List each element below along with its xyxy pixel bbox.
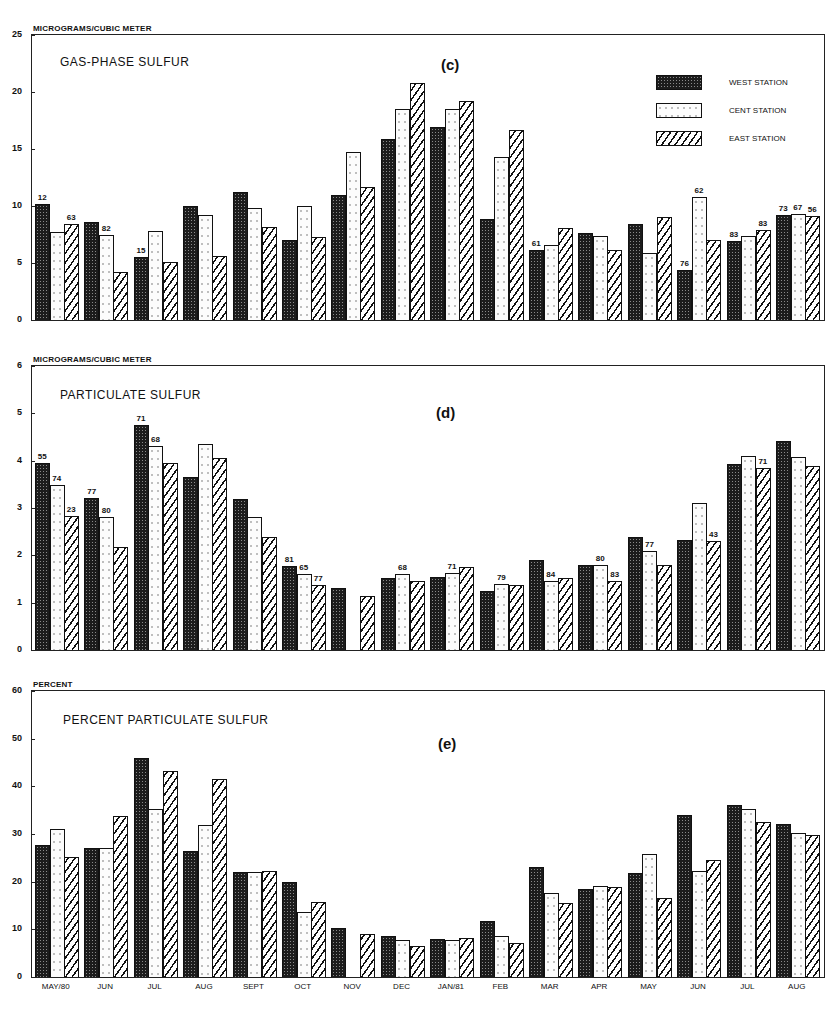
bar-cent-station — [297, 912, 312, 977]
y-tick-mark — [31, 834, 35, 835]
bar-east-station — [657, 898, 672, 977]
bar-east-station — [558, 903, 573, 977]
bar-east-station — [706, 860, 721, 977]
bar-west-station — [381, 936, 396, 977]
bar-west-station — [134, 758, 149, 977]
x-tick-label: JUN — [690, 982, 706, 991]
bar-west-station — [183, 851, 198, 977]
bar-west-station — [529, 867, 544, 977]
bar-west-station — [282, 882, 297, 977]
x-tick-label: AUG — [788, 982, 805, 991]
bar-east-station — [509, 943, 524, 977]
bar-area — [32, 691, 824, 977]
bar-east-station — [212, 779, 227, 977]
plot-frame: PERCENT PARTICULATE SULFUR (e) — [31, 690, 825, 978]
bar-west-station — [578, 889, 593, 977]
y-tick-mark — [31, 786, 35, 787]
bar-west-station — [331, 928, 346, 977]
bar-east-station — [311, 902, 326, 977]
y-tick-label: 50 — [6, 733, 22, 743]
bar-east-station — [360, 934, 375, 977]
bar-cent-station — [544, 893, 559, 977]
bar-east-station — [805, 835, 820, 977]
bar-east-station — [113, 816, 128, 977]
x-tick-label: APR — [591, 982, 607, 991]
bar-west-station — [84, 848, 99, 977]
panel-percent-particulate-sulfur: PERCENT PERCENT PARTICULATE SULFUR (e) 0… — [0, 0, 837, 1009]
bar-east-station — [607, 887, 622, 977]
bar-cent-station — [148, 809, 163, 977]
bar-cent-station — [395, 940, 410, 977]
bar-west-station — [430, 939, 445, 977]
x-tick-label: FEB — [493, 982, 509, 991]
bar-cent-station — [494, 936, 509, 977]
bar-cent-station — [50, 829, 65, 977]
y-tick-label: 0 — [6, 971, 22, 981]
y-tick-label: 60 — [6, 685, 22, 695]
bar-east-station — [262, 871, 277, 977]
bar-west-station — [727, 805, 742, 977]
bar-east-station — [459, 938, 474, 977]
x-tick-label: OCT — [294, 982, 311, 991]
x-tick-label: DEC — [393, 982, 410, 991]
bar-cent-station — [247, 872, 262, 977]
y-tick-mark — [31, 929, 35, 930]
bar-cent-station — [642, 854, 657, 977]
bar-cent-station — [741, 809, 756, 977]
x-tick-label: SEPT — [243, 982, 264, 991]
bar-cent-station — [99, 848, 114, 977]
y-tick-mark — [31, 739, 35, 740]
x-tick-label: JUL — [740, 982, 754, 991]
bar-west-station — [35, 845, 50, 978]
x-tick-label: MAY — [640, 982, 657, 991]
bar-cent-station — [445, 940, 460, 977]
bar-east-station — [64, 857, 79, 977]
x-tick-label: NOV — [343, 982, 360, 991]
bar-east-station — [410, 946, 425, 977]
y-tick-label: 20 — [6, 876, 22, 886]
y-axis-unit: PERCENT — [33, 680, 73, 689]
bar-west-station — [628, 873, 643, 977]
y-tick-label: 10 — [6, 923, 22, 933]
x-tick-label: MAR — [541, 982, 559, 991]
x-tick-label: AUG — [195, 982, 212, 991]
y-tick-mark — [31, 691, 35, 692]
y-tick-mark — [31, 882, 35, 883]
y-tick-label: 40 — [6, 780, 22, 790]
y-tick-mark — [31, 977, 35, 978]
x-tick-label: JUL — [147, 982, 161, 991]
bar-west-station — [677, 815, 692, 977]
bar-cent-station — [692, 871, 707, 977]
bar-cent-station — [198, 825, 213, 977]
y-tick-label: 30 — [6, 828, 22, 838]
bar-east-station — [163, 771, 178, 977]
bar-east-station — [756, 822, 771, 977]
x-tick-label: JAN/81 — [438, 982, 464, 991]
bar-west-station — [480, 921, 495, 977]
x-tick-label: JUN — [97, 982, 113, 991]
x-tick-label: MAY/80 — [42, 982, 70, 991]
bar-west-station — [776, 824, 791, 977]
bar-cent-station — [791, 833, 806, 977]
bar-west-station — [233, 872, 248, 977]
bar-cent-station — [593, 886, 608, 977]
